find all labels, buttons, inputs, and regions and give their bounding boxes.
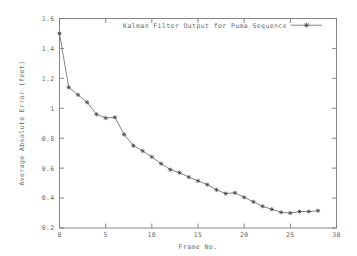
- data-point: [150, 155, 154, 159]
- legend-label-kalman: Kalman Filter Output for Puma Sequence: [123, 22, 287, 30]
- data-point: [288, 211, 292, 215]
- x-tick-label: 30: [332, 231, 340, 239]
- data-point: [104, 116, 108, 120]
- data-point: [196, 179, 200, 183]
- x-tick-label: 25: [286, 231, 294, 239]
- y-tick-label: 1.2: [42, 75, 55, 83]
- y-tick-label: 1: [50, 105, 54, 113]
- data-point: [205, 183, 209, 187]
- y-tick-label: 0.2: [42, 224, 55, 232]
- y-axis-tick-labels: 0.20.40.60.811.21.41.6: [42, 15, 55, 233]
- x-axis-title: Frame No.: [179, 243, 218, 251]
- data-point: [224, 191, 228, 195]
- y-tick-label: 0.6: [42, 165, 55, 173]
- legend-sample-line: [291, 23, 322, 28]
- data-point: [261, 204, 265, 208]
- y-axis-title: Average Absolute Error (feet): [18, 60, 26, 185]
- y-tick-label: 0.4: [42, 194, 55, 202]
- chart-figure: 0.20.40.60.811.21.41.6 051015202530 Kalm…: [0, 0, 357, 256]
- series-markers-kalman: [57, 31, 320, 215]
- x-tick-label: 20: [240, 231, 248, 239]
- data-point: [307, 209, 311, 213]
- y-axis-ticks: [60, 19, 337, 229]
- data-point: [113, 115, 117, 119]
- data-point: [316, 209, 320, 213]
- plot-frame: [60, 19, 337, 229]
- data-point: [279, 210, 283, 214]
- data-point: [187, 175, 191, 179]
- y-tick-label: 1.6: [42, 15, 55, 23]
- data-point: [251, 200, 255, 204]
- data-point: [122, 132, 126, 136]
- x-tick-label: 15: [194, 231, 202, 239]
- data-point: [270, 207, 274, 211]
- data-point: [159, 162, 163, 166]
- data-point: [67, 85, 71, 89]
- data-point: [214, 188, 218, 192]
- data-point: [76, 93, 80, 97]
- x-tick-label: 0: [57, 231, 61, 239]
- data-series-group: [57, 31, 320, 215]
- data-point: [297, 209, 301, 213]
- data-point: [141, 149, 145, 153]
- chart-legend: Kalman Filter Output for Puma Sequence: [123, 22, 322, 30]
- data-point: [168, 168, 172, 172]
- x-tick-label: 5: [104, 231, 108, 239]
- y-tick-label: 1.4: [42, 45, 55, 53]
- data-point: [242, 195, 246, 199]
- data-point: [57, 31, 61, 35]
- line-chart: 0.20.40.60.811.21.41.6 051015202530 Kalm…: [0, 0, 357, 256]
- data-point: [233, 191, 237, 195]
- x-axis-tick-labels: 051015202530: [57, 231, 340, 239]
- data-point: [85, 100, 89, 104]
- data-point: [177, 171, 181, 175]
- y-tick-label: 0.8: [42, 135, 55, 143]
- x-axis-ticks: [60, 19, 337, 229]
- series-line-kalman: [60, 33, 319, 213]
- data-point: [131, 144, 135, 148]
- x-tick-label: 10: [148, 231, 156, 239]
- data-point: [94, 112, 98, 116]
